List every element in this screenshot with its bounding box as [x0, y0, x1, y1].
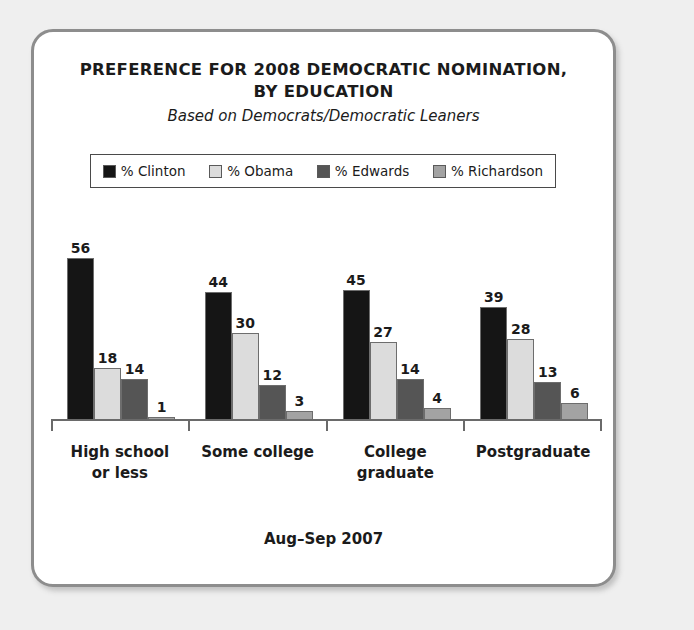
bar-group-2: 4527144: [327, 224, 465, 420]
chart-legend: % Clinton% Obama% Edwards% Richardson: [90, 154, 556, 188]
category-label-line: or less: [51, 463, 189, 484]
page-title-line1: PREFERENCE FOR 2008 DEMOCRATIC NOMINATIO…: [34, 59, 613, 81]
category-labels: High schoolor lessSome collegeCollegegra…: [51, 442, 602, 484]
bar-value-label: 14: [400, 361, 419, 377]
x-axis-tick-1: [188, 420, 190, 431]
bar-1-2[interactable]: 12: [259, 224, 286, 420]
bar-value-label: 6: [570, 385, 580, 401]
legend-swatch-icon: [103, 165, 116, 178]
legend-item-0[interactable]: % Clinton: [103, 163, 186, 179]
legend-item-label: % Obama: [227, 163, 293, 179]
bar-rect: [507, 339, 534, 420]
bar-1-1[interactable]: 30: [232, 224, 259, 420]
legend-item-2[interactable]: % Edwards: [317, 163, 409, 179]
bar-2-1[interactable]: 27: [370, 224, 397, 420]
x-axis-tick-4: [600, 420, 602, 431]
page-subtitle: Based on Democrats/Democratic Leaners: [34, 105, 613, 127]
category-label-line: Postgraduate: [464, 442, 602, 463]
category-label-line: graduate: [327, 463, 465, 484]
bar-rect: [397, 379, 424, 420]
bar-2-3[interactable]: 4: [424, 224, 451, 420]
bar-rect: [205, 292, 232, 420]
legend-item-3[interactable]: % Richardson: [433, 163, 543, 179]
legend-swatch-icon: [433, 165, 446, 178]
category-label-3: Postgraduate: [464, 442, 602, 484]
bar-0-1[interactable]: 18: [94, 224, 121, 420]
bar-group-3: 3928136: [464, 224, 602, 420]
bar-3-1[interactable]: 28: [507, 224, 534, 420]
bar-group-1: 4430123: [189, 224, 327, 420]
category-label-line: Some college: [189, 442, 327, 463]
bar-rect: [232, 333, 259, 420]
bars-area: 5618141443012345271443928136: [51, 224, 602, 420]
chart-card: PREFERENCE FOR 2008 DEMOCRATIC NOMINATIO…: [31, 29, 616, 587]
bar-value-label: 1: [157, 399, 167, 415]
bar-rect: [534, 382, 561, 420]
legend-swatch-icon: [317, 165, 330, 178]
legend-swatch-icon: [209, 165, 222, 178]
bar-0-3[interactable]: 1: [148, 224, 175, 420]
legend-item-label: % Richardson: [451, 163, 543, 179]
bar-rect: [94, 368, 121, 420]
legend-item-1[interactable]: % Obama: [209, 163, 293, 179]
category-label-1: Some college: [189, 442, 327, 484]
bar-value-label: 39: [484, 289, 503, 305]
bar-value-label: 30: [236, 315, 255, 331]
bar-rect: [67, 258, 94, 420]
page-title-line2: BY EDUCATION: [34, 81, 613, 103]
bar-rect: [121, 379, 148, 420]
bar-3-0[interactable]: 39: [480, 224, 507, 420]
title-block: PREFERENCE FOR 2008 DEMOCRATIC NOMINATIO…: [34, 59, 613, 127]
x-axis-tick-2: [326, 420, 328, 431]
legend-item-label: % Clinton: [121, 163, 186, 179]
bar-rect: [480, 307, 507, 420]
bar-0-2[interactable]: 14: [121, 224, 148, 420]
category-label-2: Collegegraduate: [327, 442, 465, 484]
bar-rect: [343, 290, 370, 421]
bar-2-0[interactable]: 45: [343, 224, 370, 420]
bar-value-label: 13: [538, 364, 557, 380]
bar-rect: [370, 342, 397, 420]
chart-plot-area: 5618141443012345271443928136: [51, 217, 602, 435]
bar-group-0: 5618141: [51, 224, 189, 420]
bar-rect: [561, 403, 588, 420]
category-label-0: High schoolor less: [51, 442, 189, 484]
bar-value-label: 4: [432, 390, 442, 406]
bar-2-2[interactable]: 14: [397, 224, 424, 420]
bar-value-label: 12: [263, 367, 282, 383]
x-axis-tick-0: [51, 420, 53, 431]
bar-3-3[interactable]: 6: [561, 224, 588, 420]
category-label-line: High school: [51, 442, 189, 463]
bar-value-label: 14: [125, 361, 144, 377]
bar-value-label: 18: [98, 350, 117, 366]
x-axis-tick-3: [463, 420, 465, 431]
bar-value-label: 27: [373, 324, 392, 340]
bar-0-0[interactable]: 56: [67, 224, 94, 420]
bar-value-label: 45: [346, 272, 365, 288]
category-label-line: College: [327, 442, 465, 463]
bar-value-label: 56: [71, 240, 90, 256]
bar-rect: [259, 385, 286, 420]
bar-value-label: 3: [294, 393, 304, 409]
bar-3-2[interactable]: 13: [534, 224, 561, 420]
bar-value-label: 44: [209, 274, 228, 290]
bar-1-3[interactable]: 3: [286, 224, 313, 420]
chart-footnote: Aug–Sep 2007: [34, 530, 613, 548]
legend-item-label: % Edwards: [335, 163, 409, 179]
bar-1-0[interactable]: 44: [205, 224, 232, 420]
bar-value-label: 28: [511, 321, 530, 337]
